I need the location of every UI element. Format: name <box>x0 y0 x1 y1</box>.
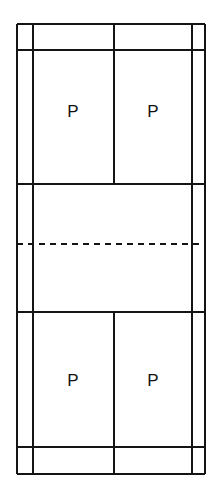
player-bottom-left: P <box>67 371 78 390</box>
player-top-right: P <box>147 102 158 121</box>
player-top-left: P <box>67 102 78 121</box>
player-bottom-right: P <box>147 371 158 390</box>
court-svg: PPPP <box>0 0 216 498</box>
court-diagram: PPPP <box>0 0 216 498</box>
